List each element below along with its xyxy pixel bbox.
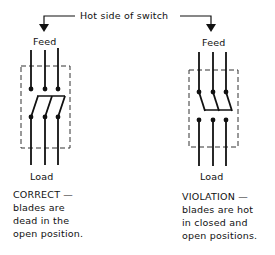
left-caption: CORRECT — blades are dead in the open po… xyxy=(13,188,83,240)
left-caption-line: open position. xyxy=(13,227,83,240)
right-caption: VIOLATION — blades are hot in closed and… xyxy=(182,190,257,242)
left-feed-label: Feed xyxy=(33,36,56,47)
right-caption-title: VIOLATION — xyxy=(182,190,257,203)
right-caption-line: open positions. xyxy=(182,229,257,242)
arrow-down-icon xyxy=(39,24,216,32)
left-switch xyxy=(21,48,70,165)
right-feed-label: Feed xyxy=(202,37,225,48)
hot-side-label: Hot side of switch xyxy=(80,10,168,21)
right-load-label: Load xyxy=(200,171,224,182)
right-switch xyxy=(189,52,238,166)
right-caption-line: blades are hot xyxy=(182,203,257,216)
left-caption-title: CORRECT — xyxy=(13,188,83,201)
left-caption-line: blades are xyxy=(13,201,83,214)
right-caption-line: in closed and xyxy=(182,216,257,229)
left-load-label: Load xyxy=(30,171,54,182)
left-caption-line: dead in the xyxy=(13,214,83,227)
